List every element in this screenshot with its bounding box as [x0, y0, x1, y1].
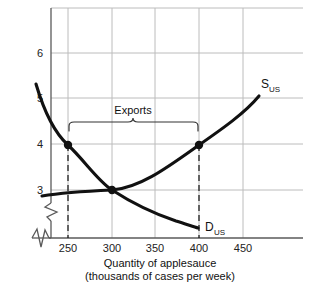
x-tick-label-300: 300	[103, 242, 121, 254]
demand-label-subscript: US	[214, 228, 225, 237]
supply-label-main: S	[261, 77, 269, 91]
x-axis-title-line2: (thousands of cases per week)	[85, 270, 235, 282]
x-axis-title-line1: Quantity of applesauce	[104, 257, 217, 269]
y-tick-label-3: 3	[37, 184, 43, 196]
x-tick-label-400: 400	[190, 242, 208, 254]
equilibrium-point-marker	[108, 186, 116, 194]
x-tick-label-450: 450	[234, 242, 252, 254]
supply-point-400-marker	[195, 141, 203, 149]
supply-demand-chart: 6 5 4 3 250 300 350 400 450	[0, 0, 309, 283]
demand-point-250-marker	[64, 141, 72, 149]
x-axis-title: Quantity of applesauce (thousands of cas…	[85, 257, 235, 282]
y-tick-label-4: 4	[37, 138, 43, 150]
chart-figure: 6 5 4 3 250 300 350 400 450	[0, 0, 309, 283]
demand-label-main: D	[205, 220, 214, 234]
x-tick-label-250: 250	[59, 242, 77, 254]
exports-label: Exports	[114, 104, 152, 116]
supply-label-subscript: US	[269, 85, 280, 94]
y-tick-label-6: 6	[37, 47, 43, 59]
x-tick-label-350: 350	[146, 242, 164, 254]
